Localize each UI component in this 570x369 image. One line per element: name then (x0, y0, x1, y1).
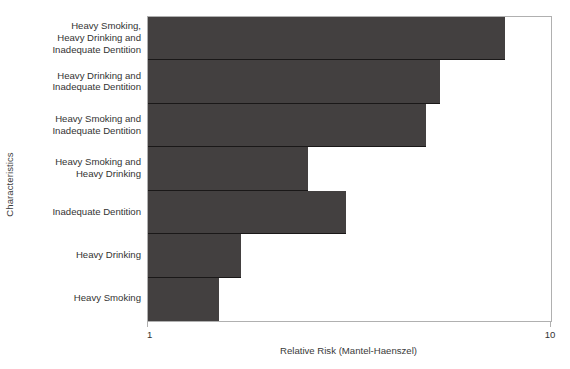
category-label: Heavy Smoking andInadequate Dentition (20, 103, 141, 146)
bar-chart-figure: Characteristics Heavy Smoking,Heavy Drin… (0, 0, 570, 369)
category-label: Heavy Smoking (20, 277, 141, 320)
y-axis-title: Characteristics (0, 0, 18, 369)
category-label: Heavy Smoking,Heavy Drinking andInadequa… (20, 16, 141, 59)
category-label: Heavy Drinking (20, 233, 141, 276)
category-label: Inadequate Dentition (20, 190, 141, 233)
category-label: Heavy Smoking andHeavy Drinking (20, 146, 141, 189)
bar (148, 147, 308, 190)
bar-series (148, 17, 551, 321)
bar (148, 104, 426, 147)
x-tick-max-mark (550, 321, 551, 327)
x-tick-min-mark (147, 321, 148, 327)
category-label-column: Heavy Smoking,Heavy Drinking andInadequa… (20, 16, 141, 320)
category-label: Heavy Drinking andInadequate Dentition (20, 59, 141, 102)
bar (148, 17, 505, 60)
bar (148, 278, 219, 321)
x-axis-title: Relative Risk (Mantel-Haenszel) (147, 345, 550, 356)
bar (148, 234, 241, 277)
x-tick-label-max: 10 (535, 329, 565, 340)
bar (148, 191, 346, 234)
bar (148, 60, 440, 103)
plot-area (147, 16, 552, 322)
x-tick-label-min: 1 (132, 329, 177, 340)
